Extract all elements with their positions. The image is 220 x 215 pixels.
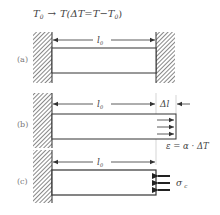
left-wall-a [33, 32, 52, 83]
panel-c: (c) l0 σc [17, 150, 187, 203]
panel-label-c: (c) [17, 177, 28, 186]
length-sub: 0 [100, 40, 104, 46]
stress-label: σc [176, 178, 187, 189]
svg-text:l0: l0 [97, 157, 104, 168]
dimension-delta-l: Δl [159, 99, 190, 109]
svg-text:T0→T(ΔT=T−T0): T0→T(ΔT=T−T0) [33, 8, 122, 20]
arrow-icon: → [48, 8, 57, 19]
thermal-stress-diagram: T0→T(ΔT=T−T0) (a) l0 (b) l0 [0, 0, 220, 215]
svg-text:l0: l0 [97, 35, 104, 46]
bar-c-compressed [52, 170, 156, 195]
title-expression: T0→T(ΔT=T−T0) [33, 8, 122, 20]
left-wall-c [33, 150, 52, 203]
bar-a [52, 48, 156, 73]
dimension-l0-c: l0 [53, 157, 155, 168]
svg-text:l0: l0 [97, 99, 104, 110]
initial-temp-sub: 0 [40, 13, 44, 20]
sigma: σ [176, 178, 183, 188]
delta-l-label: Δl [159, 99, 169, 109]
temp-expression: T(ΔT=T−T [60, 8, 116, 19]
left-wall-b [33, 93, 52, 148]
bar-b-expanded [52, 114, 176, 139]
dimension-l0-b: l0 [53, 99, 155, 110]
panel-label-a: (a) [17, 55, 28, 64]
length-sub: 0 [100, 104, 104, 110]
panel-label-b: (b) [17, 120, 28, 129]
temp-expression-close: ) [118, 8, 122, 19]
dimension-l0-a: l0 [53, 35, 155, 46]
compression-arrows [158, 176, 170, 190]
length-sub: 0 [100, 162, 104, 168]
sigma-sub: c [184, 183, 187, 189]
strain-formula: ε = α · ΔT [166, 141, 210, 151]
panel-a: (a) l0 [17, 32, 175, 83]
right-wall-a [156, 32, 175, 83]
